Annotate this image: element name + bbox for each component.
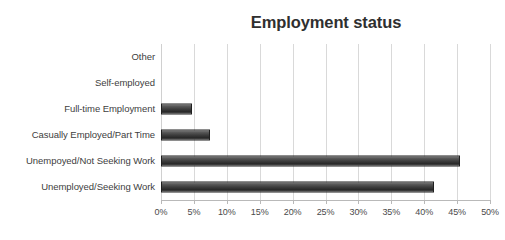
bar [161, 156, 460, 167]
category-axis-labels: OtherSelf-employedFull-time EmploymentCa… [0, 44, 155, 200]
x-tick-label: 40% [409, 207, 439, 217]
category-label: Other [0, 51, 155, 62]
x-tick-label: 45% [442, 207, 472, 217]
x-tick-mark [194, 200, 195, 204]
employment-status-bar-chart: Employment status OtherSelf-employedFull… [0, 0, 505, 240]
bar-row [161, 70, 490, 96]
x-tick-label: 5% [179, 207, 209, 217]
x-tick-mark [424, 200, 425, 204]
x-tick-label: 30% [343, 207, 373, 217]
x-tick-mark [326, 200, 327, 204]
bar-series [161, 44, 490, 200]
x-tick-mark [391, 200, 392, 204]
x-tick-label: 25% [311, 207, 341, 217]
bar [161, 130, 210, 141]
gridline-50 [490, 44, 491, 200]
category-label: Unempoyed/Not Seeking Work [0, 155, 155, 166]
x-tick-label: 35% [376, 207, 406, 217]
bar-row [161, 148, 490, 174]
category-label: Unemployed/Seeking Work [0, 181, 155, 192]
x-tick-label: 0% [146, 207, 176, 217]
x-tick-mark [161, 200, 162, 204]
x-tick-label: 10% [212, 207, 242, 217]
bar-row [161, 44, 490, 70]
category-label: Self-employed [0, 77, 155, 88]
bar [161, 182, 434, 193]
bar-row [161, 122, 490, 148]
category-label: Casually Employed/Part Time [0, 129, 155, 140]
x-tick-label: 15% [245, 207, 275, 217]
x-tick-mark [490, 200, 491, 204]
bar [161, 104, 192, 115]
x-tick-mark [227, 200, 228, 204]
bar-row [161, 96, 490, 122]
x-tick-label: 20% [278, 207, 308, 217]
x-tick-label: 50% [475, 207, 505, 217]
x-tick-mark [260, 200, 261, 204]
chart-title: Employment status [161, 13, 491, 32]
plot-area [161, 44, 490, 200]
clipped-text-above [38, 0, 458, 3]
bar-row [161, 174, 490, 200]
x-tick-mark [457, 200, 458, 204]
category-label: Full-time Employment [0, 103, 155, 114]
x-tick-mark [358, 200, 359, 204]
x-tick-mark [293, 200, 294, 204]
